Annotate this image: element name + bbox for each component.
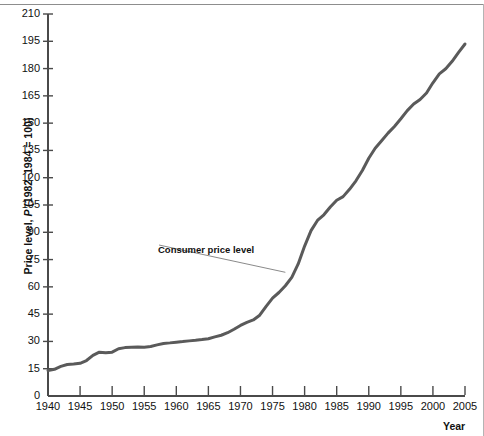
x-axis-tick-label: 2005 [448, 401, 482, 412]
x-axis-tick-label: 1940 [31, 401, 65, 412]
y-axis-title-symbol: P [22, 210, 34, 217]
y-axis-title-prefix: Price level, [22, 217, 34, 275]
x-axis-tick-label: 2000 [416, 401, 450, 412]
x-axis-tick-label: 1965 [191, 401, 225, 412]
y-axis-tick-label: 180 [14, 63, 40, 74]
y-axis-tick-label: 195 [14, 35, 40, 46]
x-axis-tick-label: 1990 [352, 401, 386, 412]
x-axis-tick-label: 1970 [223, 401, 257, 412]
y-axis-tick-label: 30 [14, 335, 40, 346]
series-group [48, 44, 465, 371]
y-axis-tick-label: 15 [14, 363, 40, 374]
x-axis-tick-label: 1985 [320, 401, 354, 412]
x-axis-tick-label: 1950 [95, 401, 129, 412]
x-axis-tick-label: 1955 [127, 401, 161, 412]
y-axis-title: Price level, P (1982–1984 = 100) [22, 81, 34, 311]
x-axis-title: Year [443, 420, 465, 432]
y-axis-tick-label: 210 [14, 8, 40, 19]
data-series-line [48, 44, 465, 371]
x-axis-tick-label: 1995 [384, 401, 418, 412]
axes-group [43, 14, 465, 396]
x-axis-tick-label: 1960 [159, 401, 193, 412]
y-axis-title-suffix: (1982–1984 = 100) [22, 118, 34, 210]
chart-figure: 0153045607590105120135150165180195210 19… [0, 0, 484, 436]
x-axis-tick-label: 1980 [288, 401, 322, 412]
chart-plot-area [0, 0, 484, 436]
series-annotation-label: Consumer price level [158, 244, 254, 255]
x-axis-tick-label: 1945 [63, 401, 97, 412]
x-axis-tick-label: 1975 [256, 401, 290, 412]
